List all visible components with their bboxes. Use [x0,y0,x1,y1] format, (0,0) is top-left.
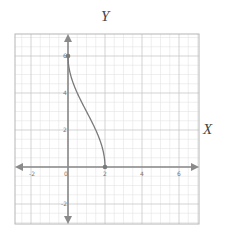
arrow-up-icon [64,34,72,42]
chart-canvas: -20246-2246 [0,0,227,236]
x-tick-label: -2 [29,170,35,177]
x-tick-label: 0 [64,170,68,177]
endpoint-dot [66,54,71,59]
y-tick-label: 2 [63,126,67,133]
endpoint-dot [103,165,108,170]
y-tick-label: 4 [63,89,67,96]
axes [15,34,199,224]
arrow-left-icon [15,163,23,171]
major-grid [15,34,199,224]
x-tick-label: 6 [177,170,181,177]
x-tick-label: 4 [140,170,144,177]
minor-grid [15,34,199,224]
y-axis-title: Y [101,8,109,25]
x-axis-title: X [203,121,212,138]
x-tick-label: 2 [103,170,107,177]
y-tick-label: -2 [61,200,67,207]
plot-frame [15,34,199,224]
